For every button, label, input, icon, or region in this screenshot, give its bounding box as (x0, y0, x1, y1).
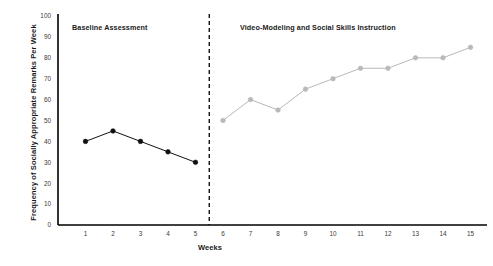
line-chart-plot: 0102030405060708090100123456789101112131… (0, 0, 493, 266)
data-point[interactable] (276, 108, 281, 113)
phase-label-baseline: Baseline Assessment (72, 23, 148, 32)
data-point[interactable] (193, 160, 198, 165)
y-tick-label: 10 (44, 200, 52, 207)
data-point[interactable] (413, 56, 418, 61)
y-axis-title: Frequency of Socially Appropriate Remark… (29, 18, 38, 228)
y-tick-label: 70 (44, 75, 52, 82)
x-tick-label: 12 (384, 230, 392, 237)
y-tick-label: 0 (47, 221, 51, 228)
data-point[interactable] (358, 66, 363, 71)
data-point[interactable] (303, 87, 308, 92)
x-tick-label: 3 (139, 230, 143, 237)
x-tick-label: 6 (221, 230, 225, 237)
x-tick-label: 10 (329, 230, 337, 237)
phase-label-intervention: Video-Modeling and Social Skills Instruc… (240, 23, 396, 32)
x-tick-label: 14 (439, 230, 447, 237)
y-tick-label: 50 (44, 117, 52, 124)
series-line-1 (223, 47, 471, 120)
x-tick-label: 7 (249, 230, 253, 237)
x-tick-label: 4 (166, 230, 170, 237)
data-point[interactable] (111, 129, 116, 134)
x-tick-label: 5 (194, 230, 198, 237)
data-point[interactable] (166, 150, 171, 155)
y-tick-label: 60 (44, 96, 52, 103)
x-tick-label: 1 (84, 230, 88, 237)
data-point[interactable] (441, 56, 446, 61)
x-tick-label: 15 (467, 230, 475, 237)
data-point[interactable] (386, 66, 391, 71)
data-point[interactable] (138, 139, 143, 144)
y-tick-label: 80 (44, 54, 52, 61)
series-line-0 (86, 131, 196, 162)
y-tick-label: 20 (44, 180, 52, 187)
y-tick-label: 30 (44, 159, 52, 166)
data-point[interactable] (83, 139, 88, 144)
x-tick-label: 2 (111, 230, 115, 237)
x-tick-label: 9 (304, 230, 308, 237)
y-tick-label: 40 (44, 138, 52, 145)
data-point[interactable] (248, 97, 253, 102)
x-tick-label: 11 (357, 230, 364, 237)
data-point[interactable] (468, 45, 473, 50)
data-point[interactable] (221, 118, 226, 123)
x-tick-label: 13 (412, 230, 420, 237)
data-point[interactable] (331, 76, 336, 81)
y-tick-label: 90 (44, 33, 52, 40)
chart-container: 0102030405060708090100123456789101112131… (0, 0, 493, 266)
x-axis-title: Weeks (0, 243, 420, 252)
y-tick-label: 100 (40, 12, 51, 19)
x-tick-label: 8 (276, 230, 280, 237)
